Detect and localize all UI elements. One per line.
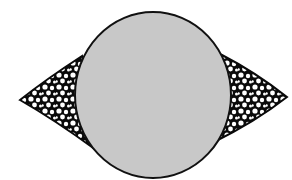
- diagram-canvas: [0, 0, 292, 180]
- diagram-svg: [0, 0, 292, 180]
- circle-shape: [75, 12, 231, 178]
